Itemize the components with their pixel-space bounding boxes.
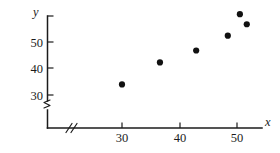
- data-point: [244, 21, 250, 27]
- x-tick-label-30: 30: [116, 131, 129, 145]
- y-tick-label-40: 40: [31, 62, 44, 76]
- y-tick-label-50: 50: [31, 36, 44, 50]
- plot-canvas: 50 40 30 30 40 50 y x: [0, 0, 280, 153]
- y-axis-break-icon: [44, 100, 50, 108]
- y-tick-label-30: 30: [31, 89, 44, 103]
- data-point-series: [119, 11, 250, 87]
- x-tick-label-50: 50: [231, 131, 244, 145]
- data-point: [193, 47, 199, 53]
- y-axis-title: y: [31, 5, 39, 19]
- data-point: [157, 59, 163, 65]
- data-point: [119, 81, 125, 87]
- x-axis-title: x: [264, 115, 271, 129]
- data-point: [225, 33, 231, 39]
- x-tick-label-40: 40: [174, 131, 187, 145]
- scatter-plot-figure: 50 40 30 30 40 50 y x: [0, 0, 280, 153]
- data-point: [237, 11, 243, 17]
